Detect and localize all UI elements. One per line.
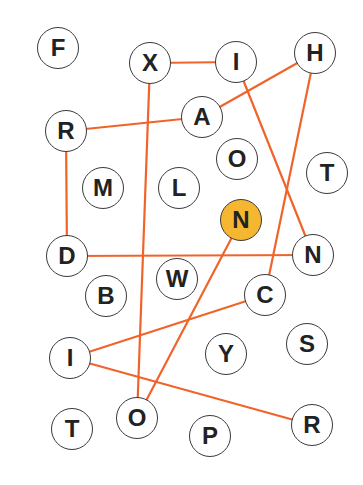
letter-node[interactable]: S: [286, 323, 328, 365]
letter-node[interactable]: C: [244, 274, 286, 316]
letter-label: T: [320, 159, 335, 187]
letter-label: T: [65, 415, 80, 443]
letter-label: N: [304, 241, 321, 269]
letter-label: O: [128, 404, 147, 432]
letter-label: H: [306, 39, 323, 67]
letter-label: I: [67, 344, 74, 372]
letter-label: C: [256, 281, 273, 309]
letter-node[interactable]: M: [82, 167, 124, 209]
letter-node[interactable]: N: [292, 234, 334, 276]
letter-label: I: [233, 48, 240, 76]
letter-label: X: [142, 49, 158, 77]
letter-node[interactable]: I: [215, 41, 257, 83]
letter-label: A: [193, 103, 210, 131]
letter-label: S: [299, 330, 315, 358]
connection-line: [67, 255, 313, 256]
letter-label: W: [166, 265, 189, 293]
letter-node[interactable]: F: [37, 27, 79, 69]
letter-node[interactable]: W: [156, 258, 198, 300]
letter-node[interactable]: T: [306, 152, 348, 194]
letter-label: R: [57, 117, 74, 145]
letter-node[interactable]: D: [46, 235, 88, 277]
letter-node[interactable]: L: [158, 167, 200, 209]
letter-puzzle-board: FXIHAROTMLNDNWBCSIYTORP: [0, 0, 363, 485]
letter-node[interactable]: I: [49, 337, 91, 379]
letter-label: P: [202, 422, 218, 450]
letter-label: L: [172, 174, 187, 202]
letter-label: M: [93, 174, 113, 202]
connection-line: [137, 63, 150, 418]
letter-node[interactable]: R: [45, 110, 87, 152]
letter-node-highlighted[interactable]: N: [220, 199, 262, 241]
letter-node[interactable]: X: [129, 42, 171, 84]
letter-label: B: [97, 282, 114, 310]
letter-label: R: [303, 411, 320, 439]
connection-line: [70, 358, 312, 425]
letter-label: D: [58, 242, 75, 270]
letter-label: Y: [218, 340, 234, 368]
letter-node[interactable]: O: [116, 397, 158, 439]
letter-node[interactable]: P: [189, 415, 231, 457]
letter-label: F: [51, 34, 66, 62]
letter-node[interactable]: A: [181, 96, 223, 138]
letter-node[interactable]: H: [294, 32, 336, 74]
letter-label: O: [228, 145, 247, 173]
letter-node[interactable]: B: [85, 275, 127, 317]
letter-node[interactable]: O: [216, 138, 258, 180]
letter-node[interactable]: T: [51, 408, 93, 450]
letter-node[interactable]: Y: [205, 333, 247, 375]
letter-label: N: [232, 206, 249, 234]
letter-node[interactable]: R: [291, 404, 333, 446]
